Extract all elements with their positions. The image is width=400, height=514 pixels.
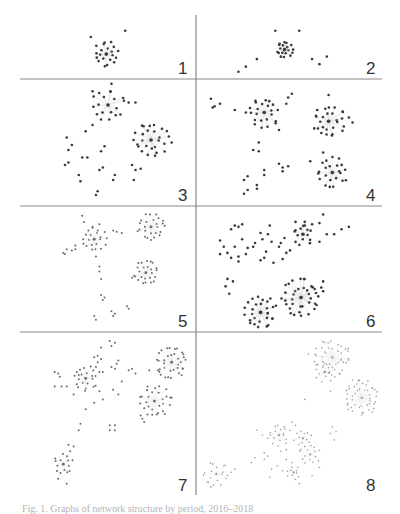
node xyxy=(173,369,175,371)
node xyxy=(251,313,254,316)
node xyxy=(67,460,69,462)
node xyxy=(261,238,264,241)
node xyxy=(171,397,173,399)
node xyxy=(164,376,166,378)
node xyxy=(163,362,165,364)
node xyxy=(84,130,87,133)
node xyxy=(301,238,304,241)
node xyxy=(243,313,246,316)
node xyxy=(176,347,178,349)
node xyxy=(66,471,68,473)
node xyxy=(87,382,89,384)
node xyxy=(91,124,94,127)
node xyxy=(348,385,350,387)
node xyxy=(341,117,344,120)
node xyxy=(294,221,297,224)
node xyxy=(270,113,273,116)
node xyxy=(358,379,360,381)
node xyxy=(329,363,331,365)
node xyxy=(206,481,208,483)
node xyxy=(160,374,162,376)
node xyxy=(73,445,75,447)
node xyxy=(140,276,142,278)
cluster xyxy=(249,99,279,129)
node xyxy=(67,161,70,164)
node xyxy=(294,241,297,244)
node xyxy=(280,450,282,452)
node xyxy=(114,424,116,426)
node xyxy=(324,351,326,353)
node xyxy=(104,231,106,233)
node xyxy=(81,215,83,217)
node xyxy=(270,240,273,243)
node xyxy=(150,232,152,234)
node xyxy=(110,41,113,44)
node xyxy=(299,227,302,230)
node xyxy=(161,128,164,131)
node xyxy=(362,383,364,385)
node xyxy=(72,459,74,461)
node xyxy=(141,139,144,142)
node xyxy=(270,432,272,434)
node xyxy=(146,237,148,239)
node xyxy=(178,372,180,374)
node xyxy=(90,36,93,39)
node xyxy=(281,258,284,261)
node xyxy=(328,347,330,349)
node xyxy=(92,95,95,98)
node xyxy=(326,233,329,236)
cluster xyxy=(82,227,108,251)
node xyxy=(287,165,290,168)
node xyxy=(100,118,103,121)
node xyxy=(246,175,249,178)
node xyxy=(182,353,184,355)
node xyxy=(97,60,100,63)
node xyxy=(314,361,316,363)
node xyxy=(315,456,317,458)
node xyxy=(348,359,350,361)
node xyxy=(158,352,160,354)
node xyxy=(251,308,254,311)
node xyxy=(149,277,151,279)
node xyxy=(203,474,205,476)
node xyxy=(139,403,141,405)
node xyxy=(284,299,287,302)
node xyxy=(282,44,285,47)
edge xyxy=(248,302,260,312)
node xyxy=(164,225,166,227)
node xyxy=(114,342,116,344)
node xyxy=(284,52,287,55)
node xyxy=(144,281,146,283)
node xyxy=(249,107,252,110)
node xyxy=(90,366,92,368)
node xyxy=(267,455,269,457)
node xyxy=(331,134,334,137)
edge xyxy=(301,298,317,305)
node xyxy=(339,373,341,375)
hub-node xyxy=(309,453,311,455)
node xyxy=(66,455,68,457)
node xyxy=(71,144,74,147)
node xyxy=(137,230,139,232)
node xyxy=(263,169,266,172)
node xyxy=(170,141,173,144)
node xyxy=(78,374,80,376)
node xyxy=(147,396,149,398)
node xyxy=(57,373,59,375)
node xyxy=(252,149,255,152)
node xyxy=(294,479,296,481)
node xyxy=(141,396,143,398)
node xyxy=(104,297,106,299)
node xyxy=(327,342,329,344)
node xyxy=(100,294,102,296)
node xyxy=(68,465,70,467)
node xyxy=(138,228,140,230)
node xyxy=(162,220,164,222)
node xyxy=(352,399,354,401)
node xyxy=(163,142,166,145)
node xyxy=(86,156,89,159)
node xyxy=(115,107,118,110)
node xyxy=(132,139,135,142)
node xyxy=(102,299,104,301)
node xyxy=(320,132,323,135)
